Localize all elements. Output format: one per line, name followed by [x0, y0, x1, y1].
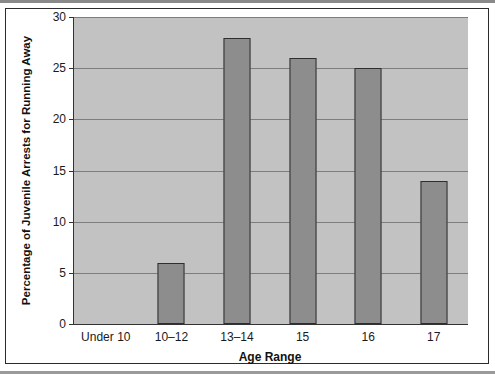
y-axis-title: Percentage of Juvenile Arrests for Runni…	[20, 17, 36, 324]
y-axis-title-container: Percentage of Juvenile Arrests for Runni…	[26, 17, 42, 324]
bars-layer	[73, 17, 467, 324]
x-tick-label-16: 16	[335, 330, 401, 344]
x-tick-label-17: 17	[401, 330, 467, 344]
bar-17[interactable]	[420, 181, 447, 324]
x-tick-label-10-12: 10–12	[139, 330, 205, 344]
bar-15[interactable]	[289, 58, 316, 324]
bar-slot-16	[335, 17, 401, 324]
bar-slot-17	[401, 17, 467, 324]
x-tick-label-15: 15	[270, 330, 336, 344]
scan-edge-top	[0, 0, 495, 3]
bar-10-12[interactable]	[158, 263, 185, 324]
x-axis-title: Age Range	[73, 350, 467, 364]
bar-16[interactable]	[355, 68, 382, 324]
bar-slot-13-14	[204, 17, 270, 324]
bar-slot-under-10	[73, 17, 139, 324]
x-tick-label-13-14: 13–14	[204, 330, 270, 344]
bar-chart-figure: 30 25 20 15 10 5 0 Percentage of Juvenil…	[0, 0, 495, 374]
bar-slot-15	[270, 17, 336, 324]
bar-slot-10-12	[139, 17, 205, 324]
x-tick-label-under-10: Under 10	[73, 330, 139, 344]
bar-13-14[interactable]	[223, 38, 250, 325]
